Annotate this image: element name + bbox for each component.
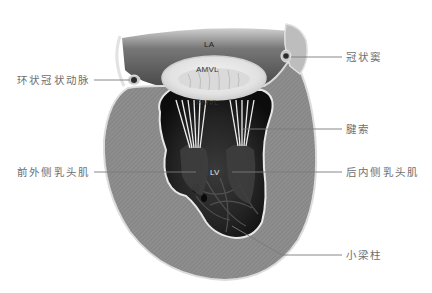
label-la: LA xyxy=(204,40,214,49)
label-pmvl: PMVL xyxy=(196,98,219,107)
callout-chordae: 腱索 xyxy=(346,123,370,135)
callout-trabeculae: 小梁柱 xyxy=(346,249,383,261)
coronary-sinus-vessel xyxy=(281,50,291,62)
callout-coronary-sinus: 冠状窦 xyxy=(346,51,383,63)
label-lv: LV xyxy=(210,168,220,177)
callout-posteromedial-papillary: 后内侧乳头肌 xyxy=(346,166,419,178)
callout-circumflex-artery: 环状冠状动脉 xyxy=(17,74,90,86)
label-amvl: AMVL xyxy=(196,65,219,74)
callout-anterolateral-papillary: 前外侧乳头肌 xyxy=(17,166,90,178)
heart-diagram: LA AMVL PMVL LV 环状冠状动脉 冠状窦 腱索 前外侧乳头肌 后内侧… xyxy=(0,0,432,293)
